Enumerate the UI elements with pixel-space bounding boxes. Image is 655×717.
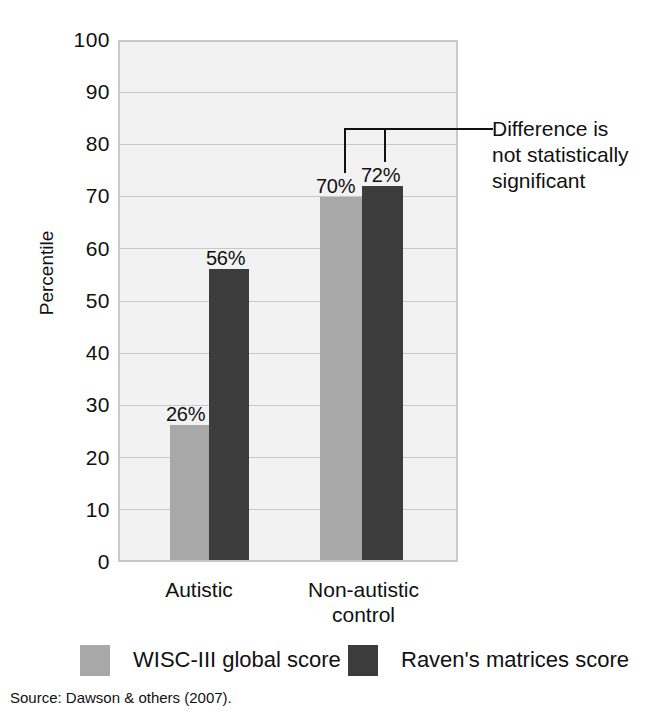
x-tick-control-line-1: Non-autistic bbox=[308, 578, 419, 601]
y-tick-80: 80 bbox=[58, 133, 110, 154]
bar-label-autistic-raven: 56% bbox=[206, 248, 245, 268]
x-tick-autistic: Autistic bbox=[144, 577, 254, 602]
x-tick-control: Non-autistic control bbox=[281, 577, 446, 627]
y-tick-0: 0 bbox=[58, 551, 110, 572]
bar-label-control-wisc: 70% bbox=[316, 176, 355, 196]
legend-swatch-raven-icon bbox=[348, 645, 378, 676]
y-tick-20: 20 bbox=[58, 447, 110, 468]
bar-autistic-raven[interactable] bbox=[209, 269, 249, 560]
annotation-line-1: Difference is bbox=[492, 116, 652, 142]
plot-area bbox=[118, 40, 458, 562]
x-tick-control-line-2: control bbox=[332, 603, 395, 626]
gridline-80 bbox=[120, 144, 456, 145]
chart-legend: WISC-III global score Raven's matrices s… bbox=[0, 641, 655, 681]
gridline-40 bbox=[120, 353, 456, 354]
bar-chart-figure: 100 90 80 70 60 50 40 30 20 10 0 Percent… bbox=[0, 0, 655, 717]
annotation-text: Difference is not statistically signific… bbox=[492, 116, 652, 194]
bar-label-autistic-wisc: 26% bbox=[166, 404, 205, 424]
bar-autistic-wisc[interactable] bbox=[170, 425, 209, 560]
legend-label-raven: Raven's matrices score bbox=[401, 649, 629, 671]
annotation-line-3: significant bbox=[492, 168, 652, 194]
bar-control-wisc[interactable] bbox=[320, 197, 362, 560]
gridline-50 bbox=[120, 301, 456, 302]
y-tick-90: 90 bbox=[58, 81, 110, 102]
annotation-line-2: not statistically bbox=[492, 142, 652, 168]
y-axis-ticks: 100 90 80 70 60 50 40 30 20 10 0 bbox=[48, 0, 110, 717]
y-tick-50: 50 bbox=[58, 290, 110, 311]
annotation-bracket-drop-left bbox=[344, 128, 346, 173]
y-tick-70: 70 bbox=[58, 185, 110, 206]
bar-control-raven[interactable] bbox=[362, 186, 403, 560]
bar-label-control-raven: 72% bbox=[361, 165, 400, 185]
gridline-70 bbox=[120, 196, 456, 197]
y-tick-60: 60 bbox=[58, 238, 110, 259]
source-note: Source: Dawson & others (2007). bbox=[10, 689, 232, 707]
y-axis-title: Percentile bbox=[36, 213, 58, 333]
y-tick-40: 40 bbox=[58, 342, 110, 363]
y-tick-100: 100 bbox=[58, 29, 110, 50]
gridline-90 bbox=[120, 92, 456, 93]
legend-item-wisc[interactable]: WISC-III global score bbox=[80, 641, 341, 679]
legend-label-wisc: WISC-III global score bbox=[133, 649, 341, 671]
legend-item-raven[interactable]: Raven's matrices score bbox=[348, 641, 629, 679]
annotation-bracket-drop-right bbox=[384, 128, 386, 162]
x-tick-autistic-line-1: Autistic bbox=[165, 578, 233, 601]
y-tick-30: 30 bbox=[58, 394, 110, 415]
annotation-bracket-horizontal bbox=[344, 128, 493, 130]
gridline-60 bbox=[120, 248, 456, 249]
y-tick-10: 10 bbox=[58, 499, 110, 520]
legend-swatch-wisc-icon bbox=[80, 645, 110, 676]
